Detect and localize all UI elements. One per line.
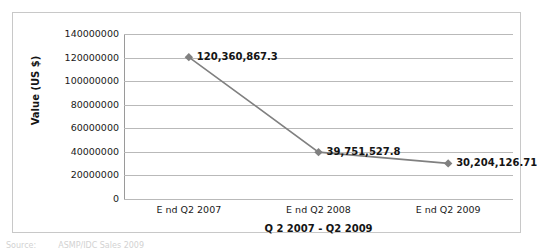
y-axis-tick-label: 100000000	[27, 76, 119, 86]
x-axis-tick-label: E nd Q2 2007	[156, 204, 221, 215]
data-point-label: 120,360,867.3	[197, 51, 278, 62]
gridline	[124, 199, 513, 200]
source-caption-label: Source:	[6, 241, 36, 250]
y-axis-ticks: 1400000001200000001000000008000000060000…	[20, 13, 119, 251]
y-axis-tick-label: 0	[27, 194, 119, 204]
series-markers	[185, 53, 453, 168]
y-axis-tick-label: 40000000	[27, 147, 119, 157]
y-axis-tick-label: 20000000	[27, 170, 119, 180]
source-caption-text: ASMP/IDC Sales 2009	[58, 241, 144, 250]
x-axis-tick-label: E nd Q2 2009	[416, 204, 481, 215]
source-caption: Source:ASMP/IDC Sales 2009	[6, 241, 266, 251]
plot-area: 120,360,867.339,751,527.830,204,126.71	[124, 34, 513, 199]
data-point-marker	[444, 159, 452, 167]
data-point-label: 30,204,126.71	[456, 157, 537, 168]
series-line	[124, 34, 513, 199]
chart-frame: Value (US $) 140000000120000000100000000…	[12, 12, 521, 233]
x-axis-title: Q 2 2007 - Q2 2009	[124, 223, 513, 234]
x-axis-tick-label: E nd Q2 2008	[286, 204, 351, 215]
series-polyline	[189, 57, 448, 163]
y-axis-tick-label: 80000000	[27, 100, 119, 110]
y-axis-tick-label: 60000000	[27, 123, 119, 133]
y-axis-tick-label: 140000000	[27, 29, 119, 39]
y-axis-tick-label: 120000000	[27, 53, 119, 63]
data-point-label: 39,751,527.8	[327, 146, 401, 157]
